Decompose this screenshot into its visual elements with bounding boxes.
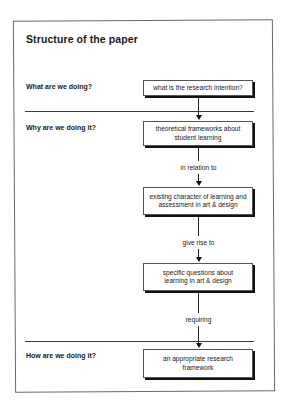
arrow-down-icon	[196, 115, 202, 120]
connector-line-4a	[198, 293, 199, 313]
section-divider-1	[25, 111, 254, 112]
box-text: theoretical frameworks about student lea…	[154, 125, 242, 142]
arrow-down-icon	[196, 181, 202, 186]
row-label-how: How are we doing it?	[26, 352, 96, 359]
connector-line-3b	[198, 249, 199, 257]
connector-line-4b	[198, 326, 199, 343]
diagram-title: Structure of the paper	[26, 33, 138, 45]
flow-box-research-framework: an appropriate research framework	[143, 349, 253, 378]
row-label-what: What are we doing?	[26, 83, 92, 90]
box-text: an appropriate research framework	[158, 355, 238, 372]
connector-line-1	[198, 98, 199, 115]
flow-box-existing-character: existing character of learning and asses…	[143, 187, 253, 215]
box-text: existing character of learning and asses…	[147, 193, 249, 210]
connector-label-requiring: requiring	[148, 316, 249, 323]
row-label-why: Why are we doing it?	[26, 124, 96, 131]
connector-label-give-rise-to: give rise to	[148, 239, 249, 246]
flow-box-specific-questions: specific questions about learning in art…	[143, 263, 253, 291]
connector-line-2a	[198, 148, 199, 161]
arrow-down-icon	[196, 257, 202, 262]
box-text: what is the research intention?	[153, 84, 242, 93]
flow-box-research-intention: what is the research intention?	[143, 80, 253, 96]
arrow-down-icon	[196, 343, 202, 348]
section-divider-2	[25, 341, 254, 342]
connector-line-2b	[198, 174, 199, 181]
connector-label-in-relation-to: in relation to	[148, 164, 249, 171]
connector-line-3a	[198, 217, 199, 236]
box-text: specific questions about learning in art…	[156, 269, 240, 286]
flow-box-theoretical-frameworks: theoretical frameworks about student lea…	[143, 121, 253, 146]
